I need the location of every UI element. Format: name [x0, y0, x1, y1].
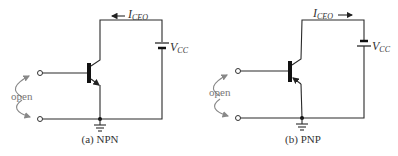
pnp-circuit: ICEO VCC open (b) PNP	[209, 6, 391, 146]
ground-icon	[94, 119, 106, 131]
transistor-iceo-diagram: ICEO VCC open (a) NPN ICEO VCC open	[0, 0, 398, 156]
return-wire	[40, 49, 162, 119]
vcc-label: VCC	[372, 39, 391, 54]
iceo-label: ICEO	[312, 6, 333, 21]
emitter-terminal	[236, 116, 241, 121]
npn-circuit: ICEO VCC open (a) NPN	[11, 7, 189, 146]
emitter-wire	[301, 84, 302, 118]
emitter-terminal	[38, 117, 43, 122]
iceo-label: ICEO	[127, 7, 148, 22]
base-terminal	[38, 71, 43, 76]
base-terminal	[236, 69, 241, 74]
open-arrow-down	[215, 99, 228, 116]
vcc-label: VCC	[170, 40, 189, 55]
open-label: open	[11, 90, 33, 102]
collector-wire	[292, 20, 364, 65]
open-label: open	[209, 86, 231, 98]
collector-wire	[91, 20, 162, 66]
caption-npn: (a) NPN	[82, 133, 119, 146]
emitter-arrow	[91, 79, 99, 85]
open-arrow-down	[17, 100, 30, 117]
caption-pnp: (b) PNP	[285, 133, 321, 146]
ground-icon	[296, 118, 308, 130]
emitter-arrow	[293, 78, 301, 84]
